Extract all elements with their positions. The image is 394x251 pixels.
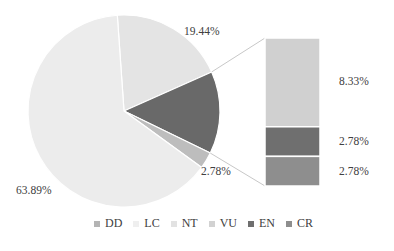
stacked-bar [265, 38, 320, 186]
legend-item-cr: CR [286, 216, 313, 231]
legend-swatch-icon [209, 221, 215, 227]
bar-segment-vu [265, 38, 320, 127]
legend-item-nt: NT [171, 216, 198, 231]
legend-item-vu: VU [209, 216, 237, 231]
pie [28, 15, 220, 207]
bar-segment-en [265, 127, 320, 157]
bar-segment-cr [265, 156, 320, 186]
legend-label: DD [105, 216, 122, 231]
connector-line-top [212, 38, 265, 72]
legend-swatch-icon [171, 221, 177, 227]
label-dd: 2.78% [201, 165, 231, 177]
label-lc: 63.89% [16, 184, 51, 196]
legend-swatch-icon [286, 221, 292, 227]
legend-swatch-icon [94, 221, 100, 227]
legend: DDLCNTVUENCR [94, 216, 324, 231]
bar-of-pie-chart [0, 0, 394, 251]
label-en: 2.78% [339, 135, 369, 147]
legend-label: CR [297, 216, 313, 231]
legend-label: EN [259, 216, 275, 231]
label-vu: 8.33% [339, 75, 369, 87]
legend-label: NT [182, 216, 198, 231]
label-nt: 19.44% [184, 25, 219, 37]
legend-swatch-icon [133, 221, 139, 227]
legend-swatch-icon [248, 221, 254, 227]
label-cr: 2.78% [339, 165, 369, 177]
legend-item-lc: LC [133, 216, 159, 231]
legend-item-dd: DD [94, 216, 122, 231]
legend-label: LC [144, 216, 159, 231]
legend-item-en: EN [248, 216, 275, 231]
legend-label: VU [220, 216, 237, 231]
